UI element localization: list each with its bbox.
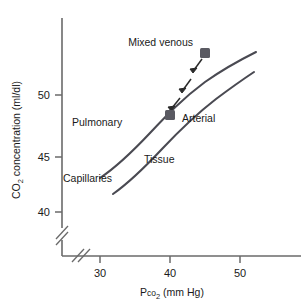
y-tick-label-40: 40 xyxy=(38,206,50,218)
y-axis-title-suffix: concentration (ml/dl) xyxy=(10,81,22,179)
label-pulmonary: Pulmonary xyxy=(72,116,123,128)
x-tick-label-30: 30 xyxy=(94,267,106,279)
label-tissue: Tissue xyxy=(144,153,175,165)
y-axis-title-prefix: CO xyxy=(10,183,22,199)
plot-background xyxy=(62,18,301,256)
label-arterial: Arterial xyxy=(182,112,215,124)
x-axis-title-prefix: P xyxy=(140,286,147,298)
chart-canvas: 50 45 40 30 40 50 CO2 concentration (ml/… xyxy=(0,0,301,306)
x-axis-title-suffix: (mm Hg) xyxy=(160,286,204,298)
x-axis-title: Pco2 (mm Hg) xyxy=(140,286,204,301)
svg-text:CO2 concentration (ml/dl): CO2 concentration (ml/dl) xyxy=(10,81,25,199)
marker-mixed-venous[interactable] xyxy=(200,48,210,58)
label-capillaries: Capillaries xyxy=(63,172,112,184)
marker-arterial[interactable] xyxy=(165,110,175,120)
x-axis-title-caps: co xyxy=(147,288,156,298)
label-mixed-venous: Mixed venous xyxy=(128,36,193,48)
y-axis-title: CO2 concentration (ml/dl) xyxy=(10,81,25,199)
x-tick-label-40: 40 xyxy=(164,267,176,279)
co2-dissociation-figure: 50 45 40 30 40 50 CO2 concentration (ml/… xyxy=(0,0,301,306)
y-tick-label-50: 50 xyxy=(38,89,50,101)
x-tick-label-50: 50 xyxy=(234,267,246,279)
y-tick-label-45: 45 xyxy=(38,151,50,163)
